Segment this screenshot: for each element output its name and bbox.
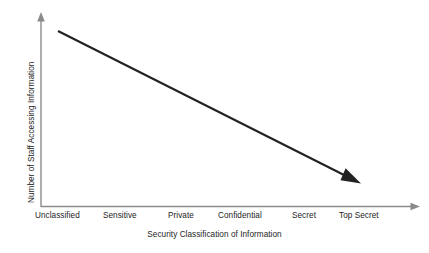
x-tick-label-secret: Secret bbox=[292, 211, 316, 221]
chart-canvas: Unclassified Sensitive Private Confident… bbox=[0, 0, 429, 253]
x-tick-label-private: Private bbox=[168, 211, 194, 221]
x-tick-label-confidential: Confidential bbox=[218, 211, 262, 221]
x-tick-label-sensitive: Sensitive bbox=[103, 211, 137, 221]
x-tick-label-group: Unclassified Sensitive Private Confident… bbox=[0, 0, 429, 253]
x-axis-title: Security Classification of Information bbox=[0, 230, 429, 239]
x-tick-label-unclassified: Unclassified bbox=[35, 211, 80, 221]
x-tick-label-top-secret: Top Secret bbox=[339, 211, 379, 221]
y-axis-title: Number of Staff Accessing Information bbox=[27, 3, 39, 203]
